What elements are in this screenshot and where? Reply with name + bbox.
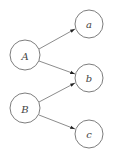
node-c: c bbox=[75, 120, 103, 148]
arrow-line bbox=[39, 83, 75, 102]
node-b: b bbox=[75, 64, 103, 92]
node-label: B bbox=[20, 104, 28, 115]
arrow-line bbox=[39, 61, 75, 74]
node-label: a bbox=[86, 19, 92, 30]
node-label: b bbox=[86, 73, 92, 84]
graph-canvas: A B a b c bbox=[0, 0, 115, 158]
node-A: A bbox=[10, 40, 40, 70]
edge-B-to-c bbox=[39, 115, 75, 129]
nodes: A B a b c bbox=[10, 10, 103, 148]
node-label: A bbox=[20, 51, 28, 62]
edges bbox=[39, 29, 75, 129]
arrow-line bbox=[39, 115, 75, 129]
arrow-line bbox=[39, 29, 75, 49]
node-a: a bbox=[75, 10, 103, 38]
node-B: B bbox=[10, 93, 40, 123]
edge-A-to-a bbox=[39, 29, 75, 49]
edge-A-to-b bbox=[39, 61, 75, 74]
node-label: c bbox=[86, 129, 92, 140]
edge-B-to-b bbox=[39, 83, 75, 102]
